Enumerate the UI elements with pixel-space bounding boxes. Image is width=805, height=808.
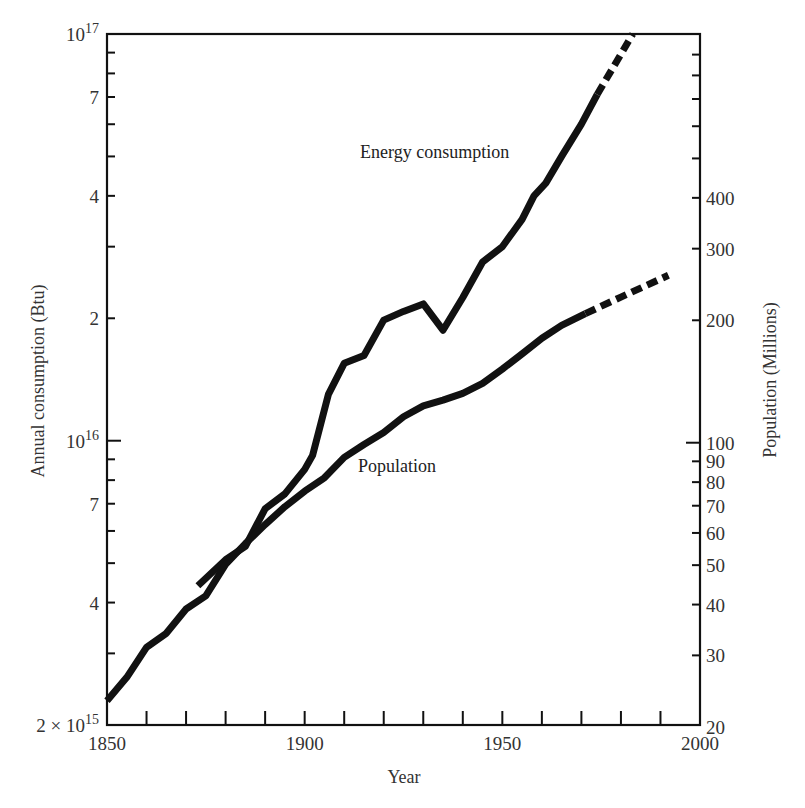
left-y-tick-label: 1016 [66, 428, 99, 452]
right-y-tick-label: 400 [706, 188, 735, 209]
right-y-tick-label: 200 [706, 310, 735, 331]
right-y-tick-label: 20 [706, 717, 725, 738]
population-line [107, 314, 585, 701]
x-tick-label: 1950 [483, 733, 521, 754]
right-y-tick-label: 60 [706, 523, 725, 544]
energy-series-label: Energy consumption [360, 142, 509, 162]
right-y-tick-label: 70 [706, 496, 725, 517]
plot-border [107, 34, 700, 725]
right-y-tick-label: 90 [706, 451, 725, 472]
left-y-tick-label: 1017 [66, 21, 99, 45]
energy-population-chart: 18501900195020002 × 10154710162471017203… [0, 0, 805, 808]
right-y-tick-label: 40 [706, 595, 725, 616]
right-y-tick-label: 100 [706, 433, 735, 454]
right-y-tick-label: 300 [706, 239, 735, 260]
right-y-tick-label: 80 [706, 472, 725, 493]
left-y-tick-label: 4 [90, 186, 100, 207]
x-tick-label: 1900 [286, 733, 324, 754]
right-y-tick-label: 30 [706, 645, 725, 666]
population-series-label: Population [358, 456, 436, 476]
left-y-tick-label: 7 [90, 494, 100, 515]
left-y-tick-label: 2 [90, 308, 100, 329]
left-y-tick-label: 4 [90, 593, 100, 614]
series-layer [107, 34, 668, 701]
right-y-axis-title: Population (Millions) [760, 302, 781, 458]
left-y-tick-label: 7 [90, 87, 100, 108]
plot-frame: 18501900195020002 × 10154710162471017203… [36, 21, 734, 754]
left-y-axis-title: Annual consumption (Btu) [28, 285, 49, 478]
energy-consumption-projection [597, 34, 633, 95]
x-tick-label: 1850 [88, 733, 126, 754]
population-projection [585, 275, 668, 313]
right-y-tick-label: 50 [706, 555, 725, 576]
x-axis-title: Year [387, 767, 420, 787]
